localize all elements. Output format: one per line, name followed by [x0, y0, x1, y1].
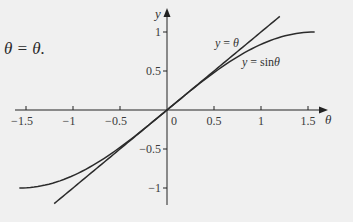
x-tick-label: −1.5	[11, 114, 33, 128]
x-tick-label: 1	[258, 114, 264, 128]
y-tick-label: −1	[148, 181, 161, 195]
x-tick-label: −1	[63, 114, 76, 128]
label-y-equals-sin-theta: y = sinθ	[241, 55, 280, 69]
x-tick-label: 1.5	[301, 114, 316, 128]
y-tick-label: −0.5	[139, 142, 161, 156]
y-axis-label: y	[153, 6, 161, 21]
x-tick-label: 0.5	[207, 114, 222, 128]
y-tick-label: 0.5	[146, 64, 161, 78]
y-tick-label: 1	[155, 25, 161, 39]
labels: −1.5−1−0.50.511.5−1−0.50.510θyy = θy = s…	[11, 6, 332, 195]
origin-label: 0	[171, 114, 177, 128]
chart: −1.5−1−0.50.511.5−1−0.50.510θyy = θy = s…	[0, 0, 353, 222]
x-axis-label: θ	[325, 112, 332, 127]
label-y-equals-theta: y = θ	[214, 36, 239, 50]
x-tick-label: −0.5	[105, 114, 127, 128]
y-axis-arrow-icon	[164, 8, 171, 17]
